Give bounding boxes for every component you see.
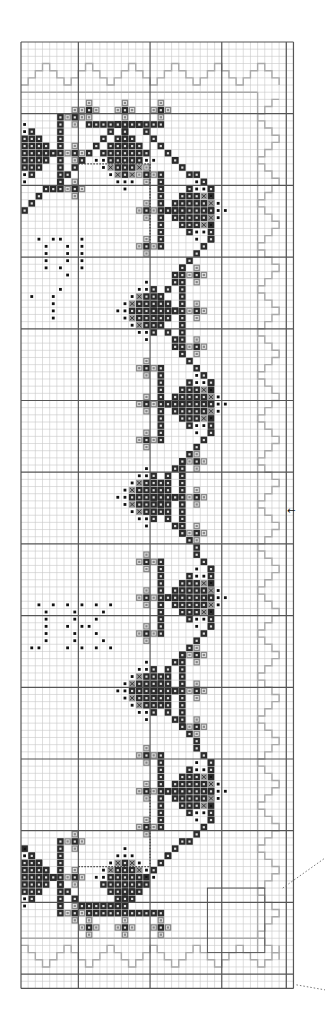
flower-motifs: [21, 100, 226, 938]
leader-lines: [78, 164, 325, 990]
cross-stitch-chart: ←: [0, 0, 325, 1014]
center-arrow-icon: ←: [287, 505, 295, 516]
